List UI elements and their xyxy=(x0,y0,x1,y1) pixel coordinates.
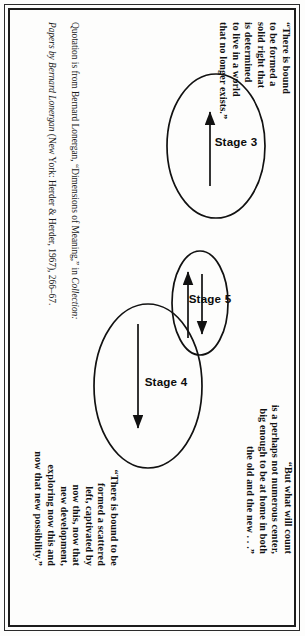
citation-line2-title: Papers by Bernard Lonergan xyxy=(47,22,57,131)
citation-line1-title: Collection: xyxy=(70,277,80,319)
quote-lower-right: “There is bound to be formed a scattered… xyxy=(31,338,119,566)
label-stage-4: Stage 4 xyxy=(144,375,187,388)
citation-line1-text: Quotation is from Bernard Lonergan, “Dim… xyxy=(70,22,80,277)
quote-upper-left: “There is bound to be formed a solid rig… xyxy=(216,22,292,222)
citation-line2-text: (New York: Herder & Herder, 1967), 266–6… xyxy=(47,131,57,305)
citation: Quotation is from Bernard Lonergan, “Dim… xyxy=(45,22,91,322)
rotated-canvas: Stage 3 Stage 4 Stage 5 “There is bound … xyxy=(8,8,298,628)
label-stage-5: Stage 5 xyxy=(188,292,231,305)
quote-upper-right: “But what will count is a perhaps not nu… xyxy=(243,324,293,554)
diagram-page: Stage 3 Stage 4 Stage 5 “There is bound … xyxy=(0,0,305,636)
